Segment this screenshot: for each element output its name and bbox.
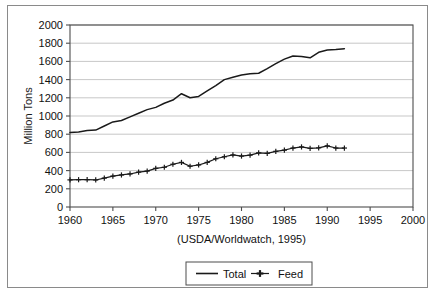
- x-axis-tick-label-1980: 1980: [229, 214, 253, 226]
- y-axis-tick-label-800: 800: [45, 128, 63, 140]
- x-axis-tick-label-1975: 1975: [186, 214, 210, 226]
- legend-label-total: Total: [223, 268, 246, 280]
- y-axis-tick-label-1200: 1200: [39, 92, 63, 104]
- y-axis-tick-label-600: 600: [45, 146, 63, 158]
- y-axis-tick-label-1400: 1400: [39, 74, 63, 86]
- x-axis-tick-label-1960: 1960: [58, 214, 82, 226]
- x-axis-tick-label-1965: 1965: [101, 214, 125, 226]
- chart-figure: 0200400600800100012001400160018002000196…: [0, 0, 442, 300]
- x-axis-tick-label-1995: 1995: [358, 214, 382, 226]
- y-axis-tick-label-0: 0: [57, 201, 63, 213]
- x-axis-tick-label-1990: 1990: [315, 214, 339, 226]
- x-axis-tick-label-2000: 2000: [401, 214, 425, 226]
- x-axis-caption: (USDA/Worldwatch, 1995): [177, 233, 306, 245]
- y-axis-tick-label-1600: 1600: [39, 55, 63, 67]
- y-axis-tick-label-1800: 1800: [39, 37, 63, 49]
- y-axis-tick-label-200: 200: [45, 183, 63, 195]
- y-axis-title: Million Tons: [22, 87, 34, 145]
- y-axis-tick-label-2000: 2000: [39, 19, 63, 31]
- legend-label-feed: Feed: [278, 268, 303, 280]
- x-axis-tick-label-1985: 1985: [272, 214, 296, 226]
- y-axis-tick-label-400: 400: [45, 165, 63, 177]
- x-axis-tick-label-1970: 1970: [144, 214, 168, 226]
- grain-production-line-chart: 0200400600800100012001400160018002000196…: [0, 0, 442, 300]
- y-axis-tick-label-1000: 1000: [39, 110, 63, 122]
